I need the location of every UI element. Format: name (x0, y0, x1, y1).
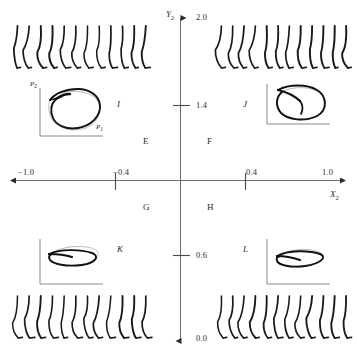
figure-canvas: −1.0 −0.4 0.4 1.0 2.0 1.4 0.6 0.0 Y2 X2 … (0, 0, 357, 356)
waveform-trace (285, 296, 290, 338)
waveform-trace (229, 296, 235, 338)
waveform-trace-foot (268, 337, 272, 338)
waveform-trace-foot (301, 337, 305, 338)
waveform-trace (295, 296, 301, 338)
waveform-trace (331, 296, 334, 338)
waveform-trace-foot (223, 337, 227, 338)
trace-group-bottom-right (0, 0, 357, 356)
waveform-trace (218, 296, 224, 338)
waveform-trace-foot (289, 337, 293, 338)
waveform-trace (264, 296, 268, 338)
waveform-trace-foot (335, 337, 340, 338)
waveform-trace-foot (244, 337, 248, 338)
waveform-trace (238, 296, 244, 338)
waveform-trace-foot (256, 337, 260, 338)
waveform-trace-foot (278, 337, 283, 338)
waveform-trace-foot (347, 337, 351, 338)
waveform-trace (306, 296, 312, 338)
waveform-trace-foot (235, 337, 238, 338)
waveform-trace-foot (312, 337, 316, 338)
waveform-trace (320, 296, 324, 338)
waveform-trace (250, 296, 256, 338)
waveform-trace-foot (324, 337, 329, 338)
waveform-trace (274, 296, 278, 338)
waveform-trace (344, 296, 348, 338)
